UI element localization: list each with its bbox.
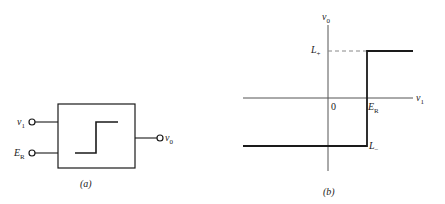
low-level-label: L− [369,141,379,154]
comparator-block [29,104,163,168]
step-symbol [75,122,118,153]
y-axis-label: v0 [322,12,330,25]
origin-label: 0 [331,102,336,112]
transfer-characteristic [243,25,413,171]
threshold-er-label: ER [368,102,379,115]
input-v1-terminal [29,119,35,125]
input-er-terminal [29,150,35,156]
high-level-label: L+ [311,45,321,58]
caption-a: (a) [80,179,92,189]
output-terminal [157,135,163,141]
output-v0-label: v0 [165,133,173,146]
input-er-label: ER [14,148,25,161]
x-axis-label: v1 [416,93,424,106]
input-v1-label: v1 [17,117,25,130]
caption-b: (b) [323,187,335,197]
